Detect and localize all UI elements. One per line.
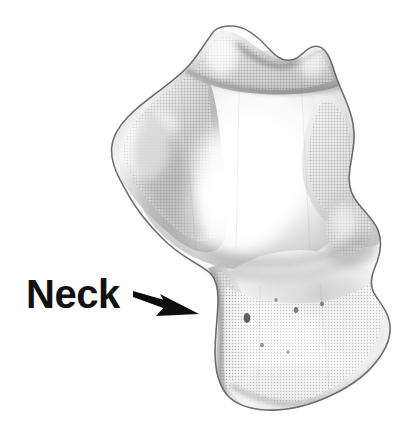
foramen bbox=[260, 343, 264, 347]
foramen bbox=[244, 313, 251, 323]
foramen bbox=[286, 350, 289, 354]
specimen-photograph bbox=[0, 0, 418, 428]
figure-root: Neck bbox=[0, 0, 418, 428]
foramen bbox=[274, 298, 277, 302]
foramen bbox=[294, 307, 298, 313]
